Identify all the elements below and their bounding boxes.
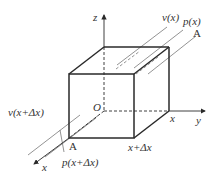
z-axis-label: z: [92, 11, 98, 23]
velocity-in-label: v(x): [162, 11, 179, 24]
area-label: A: [193, 27, 201, 39]
corner-label: A: [69, 140, 77, 152]
pressure-out-label: p(x+Δx): [61, 156, 99, 169]
y-axis-label: y: [195, 114, 201, 126]
hidden-edges: [69, 47, 169, 138]
streamlines-lower: [28, 114, 100, 157]
origin-label: O: [93, 101, 101, 113]
x-axis-label: x: [41, 161, 47, 173]
cube-edges: [69, 47, 169, 138]
velocity-out-label: v(x+Δx): [8, 106, 44, 119]
position-x-dx-label: x+Δx: [127, 141, 152, 153]
position-x-label: x: [169, 112, 175, 124]
streamlines-upper: [116, 27, 196, 74]
axes: [34, 15, 205, 164]
cube-diagram: z y x O A v(x) p(x) A v(x+Δx) p(x+Δx) x …: [0, 0, 212, 177]
